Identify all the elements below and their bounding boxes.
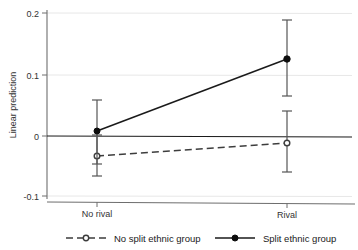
- y-tick-label-0.1: 0.1: [26, 71, 39, 81]
- gridline-0.2: [47, 13, 352, 14]
- gridline-0.1: [47, 75, 352, 76]
- marker-split-rival: [284, 56, 290, 62]
- x-tick-label-no-rival: No rival: [82, 209, 113, 219]
- chart-figure: 0.2 0.1 0 -0.1 Linear prediction No riva…: [0, 0, 358, 250]
- chart-background: [0, 0, 358, 250]
- legend-label-split-ethnic-group: Split ethnic group: [263, 233, 336, 244]
- y-tick-label-0: 0: [34, 132, 39, 142]
- y-tick-label-0.2: 0.2: [26, 9, 39, 19]
- y-tick-label-neg-0.1: -0.1: [23, 192, 39, 202]
- marker-no-split-rival: [284, 140, 290, 146]
- y-axis-title: Linear prediction: [8, 72, 18, 139]
- marker-split-no-rival: [94, 128, 100, 134]
- legend-label-no-split-ethnic-group: No split ethnic group: [114, 233, 201, 244]
- legend-marker-hollow-circle-icon: [83, 235, 88, 240]
- linear-prediction-chart: 0.2 0.1 0 -0.1 Linear prediction No riva…: [0, 0, 358, 250]
- gridline-neg-0.1: [47, 196, 352, 197]
- x-tick-label-rival: Rival: [277, 210, 297, 220]
- legend-marker-filled-circle-icon: [232, 235, 238, 241]
